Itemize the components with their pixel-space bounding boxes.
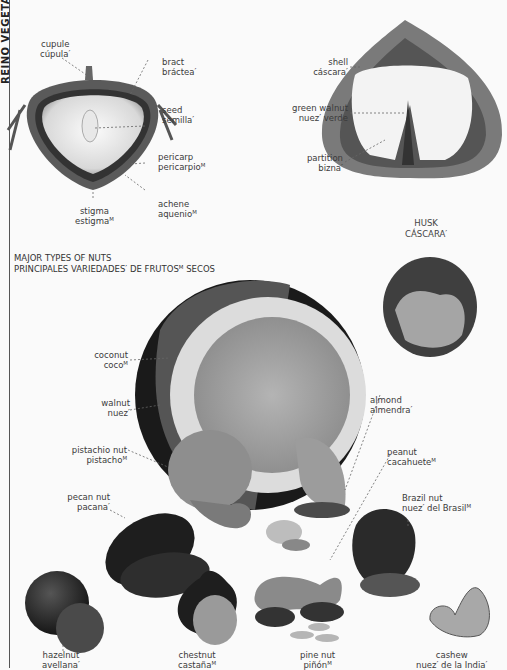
peanut-illustration: [254, 577, 344, 627]
label-partition: partitionbizna′: [295, 153, 343, 173]
label-achene: acheneaquenioᴹ: [158, 199, 197, 219]
label-coconut: coconutcocoᴹ: [70, 350, 128, 370]
label-cupule: cupulecúpula′: [40, 39, 70, 59]
label-hazelnut: hazelnutavellana′: [42, 650, 80, 670]
section-heading: MAJOR TYPES OF NUTSPRINCIPALES VARIEDADE…: [14, 253, 215, 275]
label-pistachio: pistachio nutpistachoᴹ: [55, 445, 127, 465]
label-almond: almondalmendra′: [370, 395, 413, 415]
husk-heading: HUSKCÁSCARA′: [405, 218, 447, 240]
label-pecan: pecan nutpacana′: [60, 492, 110, 512]
walnut-illustration: [168, 430, 252, 528]
label-bract: bractbráctea′: [162, 57, 196, 77]
pine-nut-illustration: [290, 623, 339, 642]
label-cashew: cashewnuez′ de la India′: [416, 650, 488, 670]
label-shell: shellcáscara′: [300, 57, 348, 77]
cashew-illustration: [430, 588, 490, 637]
brazil-nut-illustration: [352, 509, 420, 597]
husk-illustration: [383, 257, 477, 357]
label-green-walnut: green walnutnuez′ verde: [280, 103, 348, 123]
label-pine-nut: pine nutpiñónᴹ: [300, 650, 335, 670]
hazelnut-illustration: [25, 571, 104, 653]
achene-illustration: [8, 66, 176, 190]
label-stigma: stigmaestigmaᴹ: [75, 206, 114, 226]
label-seed: seedsemilla′: [162, 105, 194, 125]
label-walnut: walnutnuez′: [90, 398, 130, 418]
label-pericarp: pericarppericarpioᴹ: [158, 152, 205, 172]
green-walnut-illustration: [322, 20, 502, 178]
label-brazil-nut: Brazil nutnuez′ del Brasilᴹ: [402, 493, 471, 513]
pistachio-illustration: [266, 520, 310, 551]
label-chestnut: chestnutcastañaᴹ: [178, 650, 216, 670]
label-peanut: peanutcacahueteᴹ: [387, 447, 436, 467]
